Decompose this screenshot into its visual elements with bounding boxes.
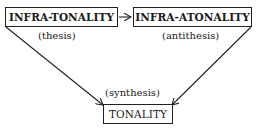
node-tonality: TONALITY [103, 104, 173, 124]
node-label: TONALITY [109, 108, 167, 120]
node-label: INFRA-ATONALITY [135, 11, 250, 23]
caption-antithesis: (antithesis) [162, 30, 219, 41]
node-infra-atonality: INFRA-ATONALITY [133, 7, 252, 27]
node-label: INFRA-TONALITY [9, 11, 114, 23]
caption-synthesis: (synthesis) [105, 87, 160, 98]
caption-thesis: (thesis) [38, 30, 76, 41]
node-infra-tonality: INFRA-TONALITY [5, 7, 118, 27]
